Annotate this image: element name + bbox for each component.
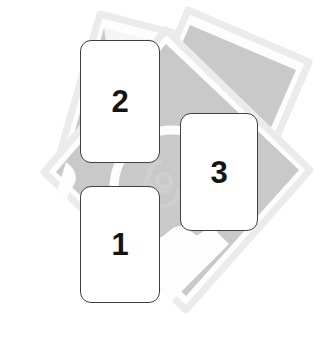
numbered-card-3[interactable]: 3 — [180, 113, 258, 231]
illustration-canvas: 2 1 3 — [0, 0, 320, 338]
numbered-card-1[interactable]: 1 — [80, 186, 160, 303]
card-number-label: 3 — [210, 157, 227, 188]
photo-stack-background — [0, 0, 320, 338]
numbered-card-2[interactable]: 2 — [80, 40, 160, 163]
card-number-label: 2 — [111, 86, 128, 117]
card-number-label: 1 — [111, 229, 128, 260]
